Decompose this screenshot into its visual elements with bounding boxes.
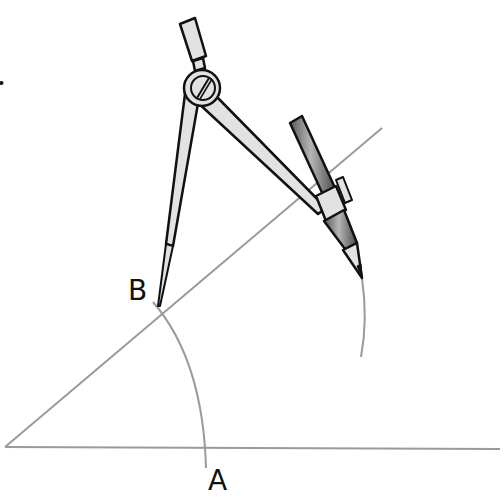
compass-needle-leg (166, 86, 200, 246)
pencil-tip-wood (343, 243, 362, 278)
arc-from-pencil (361, 278, 365, 357)
compass-needle (158, 244, 173, 306)
compass (158, 18, 326, 306)
label-point-a: A (208, 464, 227, 497)
stray-dot (0, 81, 4, 85)
arc-through-a-b (153, 302, 206, 468)
label-point-b: B (128, 274, 147, 307)
baseline (5, 447, 500, 449)
compass-handle (180, 18, 206, 61)
compass-diagram: B A (0, 0, 504, 499)
